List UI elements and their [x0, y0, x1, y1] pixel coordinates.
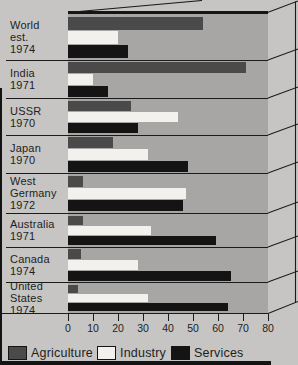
x-axis-tick-label: 50	[181, 322, 205, 334]
industry-bar	[68, 294, 148, 302]
industry-bar	[68, 149, 148, 160]
services-bar	[68, 271, 231, 281]
services-swatch-icon	[171, 346, 190, 360]
x-axis-tick-label: 80	[256, 322, 280, 334]
legend-label-agriculture: Agriculture	[31, 346, 93, 360]
x-axis-tick	[143, 314, 144, 321]
services-bar	[68, 45, 128, 58]
country-label: India1971	[10, 67, 35, 91]
agriculture-bar	[68, 216, 83, 225]
country-label: Australia1971	[10, 218, 55, 242]
country-label: USSR1970	[10, 105, 41, 129]
bar-set	[68, 14, 268, 60]
x-axis-tick-label: 0	[56, 322, 80, 334]
x-axis-tick	[218, 314, 219, 321]
legend-item-agriculture: Agriculture	[8, 346, 93, 360]
industry-swatch-icon	[97, 346, 116, 360]
page-left-edge	[0, 88, 2, 365]
industry-bar	[68, 112, 178, 122]
x-axis-tick-label: 40	[156, 322, 180, 334]
country-label: Worldest.1974	[10, 19, 40, 55]
x-axis-tick-label: 60	[206, 322, 230, 334]
bar-set	[68, 135, 268, 173]
page: Worldest.1974India1971USSR1970Japan1970W…	[0, 0, 298, 365]
country-label: WestGermany1972	[10, 175, 57, 211]
country-label: UnitedStates1974	[10, 280, 43, 316]
legend-item-industry: Industry	[97, 346, 166, 360]
agriculture-bar	[68, 176, 83, 187]
agriculture-bar	[68, 62, 246, 73]
legend: Agriculture Industry Services	[0, 346, 298, 362]
bar-group: India1971	[0, 60, 268, 98]
agriculture-bar	[68, 285, 78, 293]
bar-set	[68, 60, 268, 98]
services-bar	[68, 303, 228, 311]
x-axis-tick-label: 70	[231, 322, 255, 334]
bar-groups: Worldest.1974India1971USSR1970Japan1970W…	[0, 14, 268, 314]
bar-group: Australia1971	[0, 213, 268, 247]
services-bar	[68, 236, 216, 245]
agriculture-swatch-icon	[8, 346, 27, 360]
bar-set	[68, 247, 268, 282]
legend-label-services: Services	[194, 346, 244, 360]
industry-bar	[68, 74, 93, 85]
services-bar	[68, 86, 108, 97]
legend-label-industry: Industry	[120, 346, 166, 360]
industry-bar	[68, 226, 151, 235]
x-axis-tick-label: 20	[106, 322, 130, 334]
page-bottom-edge	[0, 361, 271, 365]
agriculture-bar	[68, 249, 81, 259]
bar-group: UnitedStates1974	[0, 282, 268, 313]
bar-group: Worldest.1974	[0, 14, 268, 60]
x-axis-tick	[193, 314, 194, 321]
industry-bar	[68, 188, 186, 199]
services-bar	[68, 123, 138, 133]
agriculture-bar	[68, 137, 113, 148]
x-axis-tick-label: 10	[81, 322, 105, 334]
bar-group: Japan1970	[0, 135, 268, 173]
agriculture-bar	[68, 17, 203, 30]
agriculture-bar	[68, 101, 131, 111]
industry-bar	[68, 31, 118, 44]
x-axis-tick	[68, 314, 69, 321]
x-axis-tick	[168, 314, 169, 321]
x-axis-tick	[268, 314, 269, 321]
country-label: Canada1974	[10, 253, 50, 277]
country-label: Japan1970	[10, 142, 41, 166]
industry-bar	[68, 260, 138, 270]
services-bar	[68, 200, 183, 211]
legend-item-services: Services	[171, 346, 244, 360]
bar-set	[68, 213, 268, 247]
services-bar	[68, 161, 188, 172]
x-axis-tick-label: 30	[131, 322, 155, 334]
bar-group: USSR1970	[0, 98, 268, 135]
bar-group: Canada1974	[0, 247, 268, 282]
bar-set	[68, 98, 268, 135]
bar-group: WestGermany1972	[0, 173, 268, 213]
bar-set	[68, 282, 268, 313]
x-axis-tick	[118, 314, 119, 321]
x-axis-tick	[243, 314, 244, 321]
bar-set	[68, 173, 268, 213]
x-axis-tick	[93, 314, 94, 321]
